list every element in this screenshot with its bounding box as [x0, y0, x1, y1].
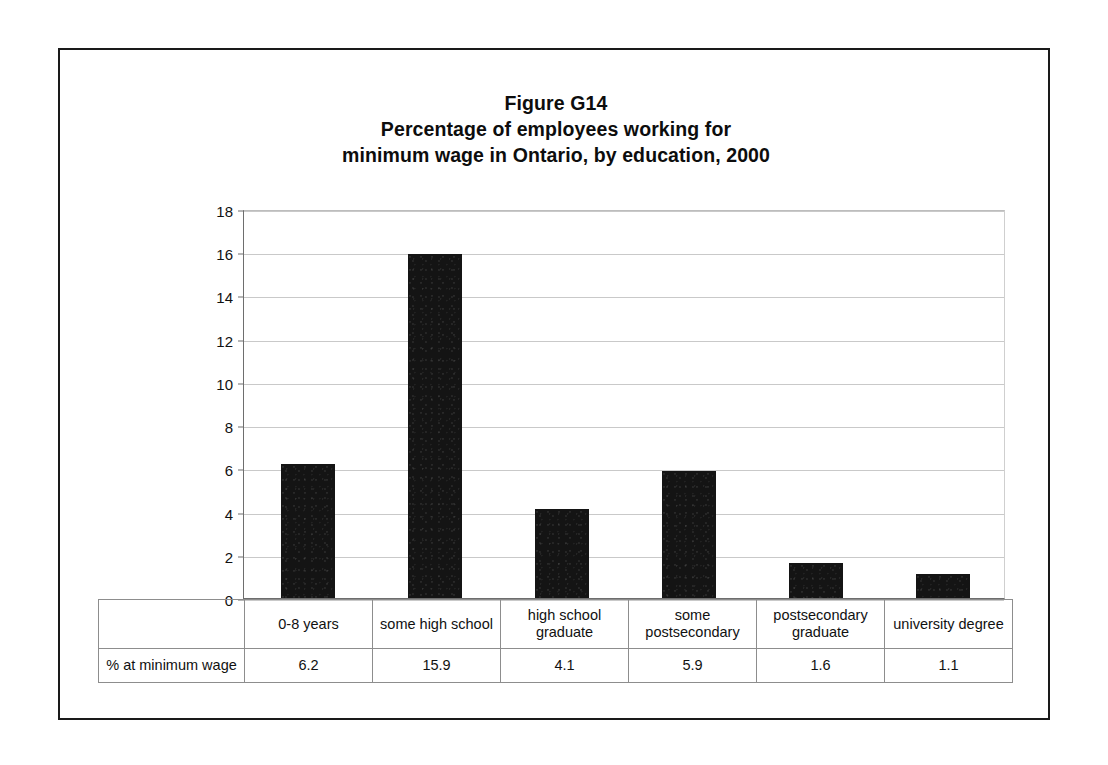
bar-slot — [498, 211, 625, 598]
category-label-line: 0-8 years — [245, 616, 372, 633]
value-cell: 6.2 — [245, 649, 373, 683]
data-table: 0-8 yearssome high schoolhigh schoolgrad… — [98, 599, 1013, 683]
category-label-line: high school — [501, 607, 628, 624]
category-label-line: graduate — [501, 624, 628, 641]
y-tick-label-6: 6 — [225, 463, 233, 478]
bar-slot — [371, 211, 498, 598]
bar[interactable] — [281, 464, 335, 598]
value-cell: 1.1 — [885, 649, 1013, 683]
category-cell: somepostsecondary — [629, 600, 757, 649]
table-row-categories: 0-8 yearssome high schoolhigh schoolgrad… — [99, 600, 1013, 649]
chart-title-line-2: Percentage of employees working for — [60, 116, 1052, 142]
y-tick-label-18: 18 — [216, 204, 233, 219]
value-cell: 15.9 — [373, 649, 501, 683]
y-tick-label-4: 4 — [225, 506, 233, 521]
series-row-header: % at minimum wage — [99, 649, 245, 683]
category-label-line: graduate — [757, 624, 884, 641]
category-cell: high schoolgraduate — [501, 600, 629, 649]
category-cell: postsecondarygraduate — [757, 600, 885, 649]
bar-slot — [244, 211, 371, 598]
y-tick-label-8: 8 — [225, 420, 233, 435]
figure-page: Figure G14 Percentage of employees worki… — [0, 0, 1108, 765]
chart-title-line-1: Figure G14 — [60, 90, 1052, 116]
category-label-line: postsecondary — [629, 624, 756, 641]
figure-frame: Figure G14 Percentage of employees worki… — [58, 48, 1050, 720]
bar-slot — [879, 211, 1006, 598]
category-label-line: university degree — [885, 616, 1012, 633]
bar[interactable] — [916, 574, 970, 598]
bar[interactable] — [408, 254, 462, 598]
plot-area: 024681012141618 — [243, 210, 1005, 599]
category-cell: some high school — [373, 600, 501, 649]
category-label-line: some high school — [373, 616, 500, 633]
table-row-values: % at minimum wage 6.215.94.15.91.61.1 — [99, 649, 1013, 683]
y-tick-label-10: 10 — [216, 376, 233, 391]
chart-title-line-3: minimum wage in Ontario, by education, 2… — [60, 142, 1052, 168]
chart-title: Figure G14 Percentage of employees worki… — [60, 90, 1052, 168]
category-label-line: some — [629, 607, 756, 624]
value-cell: 1.6 — [757, 649, 885, 683]
category-row-corner — [99, 600, 245, 649]
bar[interactable] — [789, 563, 843, 598]
bar-slot — [625, 211, 752, 598]
y-tick-label-16: 16 — [216, 247, 233, 262]
value-cell: 5.9 — [629, 649, 757, 683]
bar-slot — [752, 211, 879, 598]
y-tick-label-12: 12 — [216, 333, 233, 348]
category-cell: 0-8 years — [245, 600, 373, 649]
bar[interactable] — [662, 471, 716, 599]
y-tick-label-14: 14 — [216, 290, 233, 305]
category-label-line: postsecondary — [757, 607, 884, 624]
value-cell: 4.1 — [501, 649, 629, 683]
y-tick-label-2: 2 — [225, 549, 233, 564]
category-cell: university degree — [885, 600, 1013, 649]
bar[interactable] — [535, 509, 589, 598]
